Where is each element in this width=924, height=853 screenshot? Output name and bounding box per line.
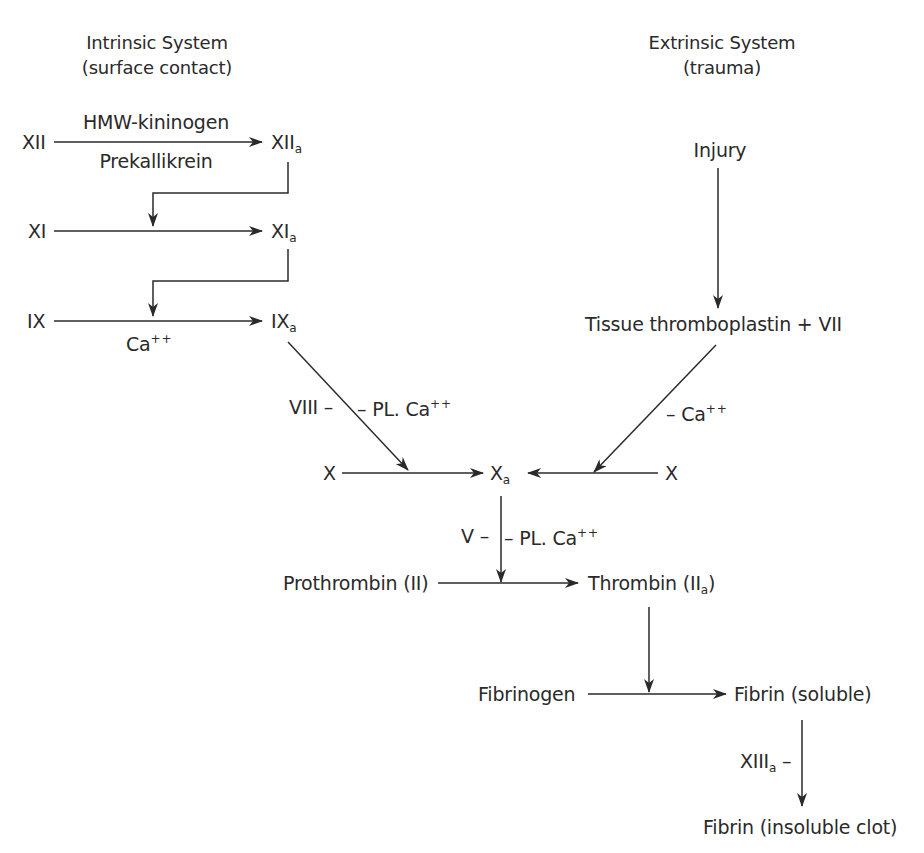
cofactor-hmw-kininogen: HMW-kininogen — [83, 113, 229, 132]
cofactor-pl-calcium-1: – PL. Ca++ — [357, 398, 452, 419]
tissue-thromboplastin-vii: Tissue thromboplastin + VII — [585, 315, 842, 334]
cofactor-calcium: Ca++ — [126, 333, 173, 354]
factor-xii: XII — [22, 133, 46, 152]
intrinsic-subtitle: (surface contact) — [82, 55, 232, 80]
factor-x-right: X — [665, 464, 678, 483]
factor-x-left: X — [323, 464, 336, 483]
factor-xia: XIa — [271, 222, 296, 244]
extrinsic-subtitle: (trauma) — [649, 55, 796, 80]
intrinsic-title: Intrinsic System — [82, 30, 232, 55]
factor-xi: XI — [28, 222, 46, 241]
factor-xiia: XIIa — [271, 133, 302, 155]
cofactor-calcium-extrinsic: – Ca++ — [666, 403, 728, 424]
extrinsic-title: Extrinsic System — [649, 30, 796, 55]
cofactor-pl-calcium-2: – PL. Ca++ — [504, 527, 599, 548]
extrinsic-header: Extrinsic System (trauma) — [649, 30, 796, 80]
fibrinogen: Fibrinogen — [478, 685, 575, 704]
factor-xiiia: XIIIa – — [740, 752, 791, 774]
cofactor-viii: VIII – — [289, 398, 333, 417]
injury: Injury — [694, 141, 747, 160]
arrow-xia-activates-ix — [153, 249, 288, 316]
cofactor-prekallikrein: Prekallikrein — [99, 152, 212, 171]
prothrombin: Prothrombin (II) — [283, 574, 428, 593]
fibrin-soluble: Fibrin (soluble) — [734, 685, 872, 704]
fibrin-insoluble-clot: Fibrin (insoluble clot) — [703, 818, 897, 837]
thrombin: Thrombin (IIa) — [588, 574, 715, 596]
factor-ix: IX — [27, 312, 45, 331]
cofactor-v: V – — [461, 527, 489, 546]
intrinsic-header: Intrinsic System (surface contact) — [82, 30, 232, 80]
factor-xa: Xa — [490, 464, 510, 486]
factor-ixa: IXa — [271, 312, 296, 334]
